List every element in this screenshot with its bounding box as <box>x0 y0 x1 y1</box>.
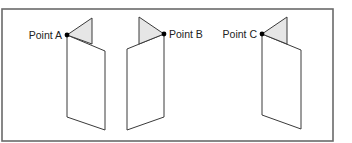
point-a-marker <box>65 33 70 38</box>
point-c-marker <box>260 32 265 37</box>
point-b-marker <box>162 32 167 37</box>
panel-b-body <box>127 34 164 130</box>
panel-c-body <box>262 34 301 129</box>
point-c-label: Point C <box>223 28 258 40</box>
panel-a-body <box>67 35 105 130</box>
point-b-label: Point B <box>169 28 203 40</box>
point-a-label: Point A <box>29 29 62 41</box>
diagram-canvas: Point A Point B Point C <box>0 0 352 143</box>
